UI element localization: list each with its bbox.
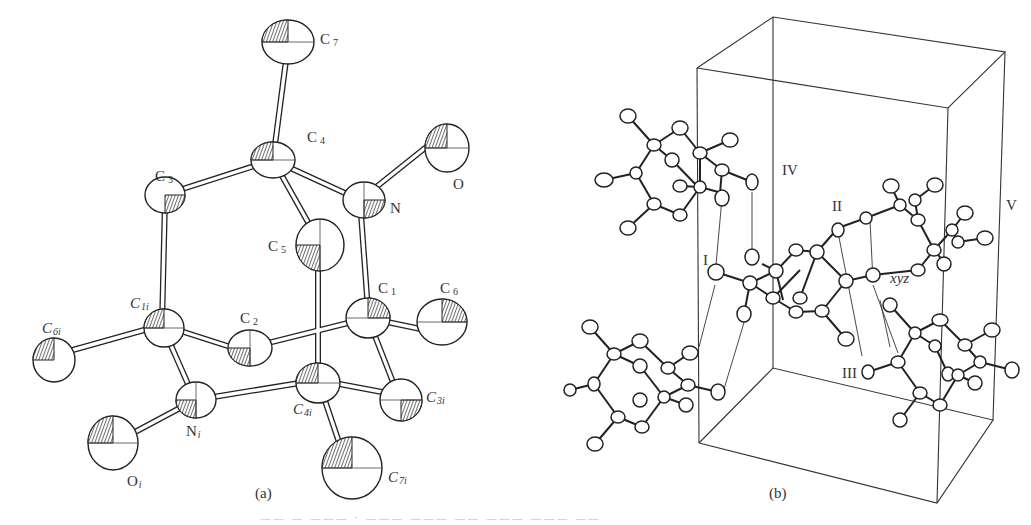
atom-C6-ellipsoid xyxy=(417,299,467,345)
atom-C4i-ellipsoid xyxy=(296,363,340,403)
atom-label-C5: C5 xyxy=(268,238,286,255)
atom-label-N: N xyxy=(390,200,401,216)
atom-label-C7: C7 xyxy=(320,31,338,48)
atom-C4-ellipsoid xyxy=(251,142,295,178)
molecule-label-IV: IV xyxy=(782,162,798,178)
crystal-structure-figure: C7 C4 C3 N O C5 C1i C2 C1 C6 C6i Ni C4i … xyxy=(0,0,1031,525)
atom-Oi-ellipsoid xyxy=(88,416,138,470)
molecule-label-I: I xyxy=(703,252,708,268)
atom-C2-ellipsoid xyxy=(228,330,272,366)
molecule-label-III: III xyxy=(842,365,857,381)
atom-label-O: O xyxy=(453,176,464,192)
molecule-label-II: II xyxy=(832,198,842,214)
atom-label-C4i: C4i xyxy=(293,401,312,418)
panel-b-unit-cell-packing: I II III IV V xyz (b) xyxy=(564,17,1019,503)
atom-C7-ellipsoid xyxy=(262,20,314,64)
atom-label-Ni: Ni xyxy=(186,423,201,440)
panel-a-ortep-diagram: C7 C4 C3 N O C5 C1i C2 C1 C6 C6i Ni C4i … xyxy=(33,20,469,502)
atom-C6i-ellipsoid xyxy=(33,338,75,382)
molecule-label-V: V xyxy=(1006,197,1017,213)
atom-C3i-ellipsoid xyxy=(380,379,422,421)
atom-N-ellipsoid xyxy=(343,182,385,218)
atom-label-C1i: C1i xyxy=(130,295,149,312)
atom-label-C2: C2 xyxy=(240,310,258,327)
unit-cell-box xyxy=(697,17,1005,503)
figure-caption: —— — ——— · ——— ——— —— ——— ——— —— xyxy=(260,512,780,525)
panel-a-label: (a) xyxy=(255,485,272,502)
molecule-upper-left xyxy=(595,109,758,235)
atom-C1i-ellipsoid xyxy=(144,309,184,347)
atom-C5-ellipsoid xyxy=(296,219,344,271)
atom-label-C3i: C3i xyxy=(426,389,445,406)
atom-O-ellipsoid xyxy=(425,124,469,172)
atom-label-C3: C3 xyxy=(155,168,173,185)
panel-a-bonds xyxy=(55,45,435,460)
molecule-center xyxy=(708,178,993,346)
atom-label-C6: C6 xyxy=(440,280,458,297)
atom-label-C7i: C7i xyxy=(388,469,407,486)
atom-Ni-ellipsoid xyxy=(176,382,216,418)
atom-label-C4: C4 xyxy=(307,129,325,146)
atom-label-C6i: C6i xyxy=(42,320,61,337)
atom-C1-ellipsoid xyxy=(346,298,390,338)
atom-label-C1: C1 xyxy=(378,280,396,297)
panel-b-label: (b) xyxy=(769,485,787,502)
atom-label-Oi: Oi xyxy=(127,473,142,490)
atom-C7i-ellipsoid xyxy=(322,437,382,499)
position-label-xyz: xyz xyxy=(889,270,909,286)
